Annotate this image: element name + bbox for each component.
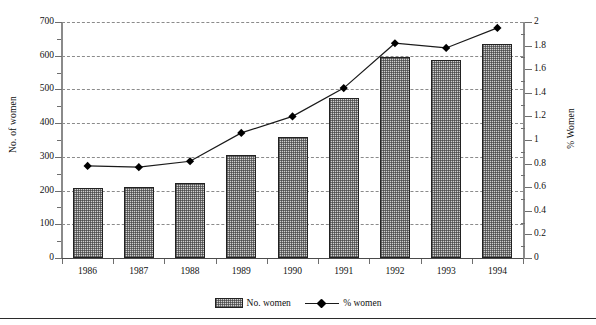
y-axis-left-minor-tick [57, 106, 61, 107]
y-axis-right-tick-label: 0 [534, 253, 539, 263]
line-series-path [88, 28, 498, 167]
x-axis-tick [523, 258, 524, 264]
y-axis-left-minor-tick [57, 174, 61, 175]
y-axis-left-minor-tick [57, 140, 61, 141]
y-axis-right-tick [525, 116, 532, 117]
y-axis-left-tick [55, 56, 62, 57]
y-axis-left-tick-label: 700 [40, 17, 54, 27]
gridline [62, 258, 523, 259]
y-axis-right-tick [525, 69, 532, 70]
line-marker [493, 24, 501, 32]
y-axis-right-tick [525, 187, 532, 188]
y-axis-right-tick [525, 140, 532, 141]
y-axis-right-tick-label: 1.8 [534, 41, 546, 51]
chart-figure: No. of women % Women 0100200300400500600… [0, 0, 596, 325]
y-axis-right-tick [525, 46, 532, 47]
plot-area [62, 22, 523, 258]
line-series [62, 22, 523, 258]
legend-item-bar: No. women [215, 297, 291, 308]
legend-label-bar: No. women [247, 298, 291, 308]
y-axis-right-tick [525, 211, 532, 212]
line-marker [288, 112, 296, 120]
x-axis-tick-label: 1994 [467, 266, 527, 276]
y-axis-right-tick [525, 22, 532, 23]
y-axis-left-minor-tick [57, 73, 61, 74]
chart-legend: No. women % women [0, 297, 596, 308]
y-axis-left-tick [55, 191, 62, 192]
y-axis-left-tick [55, 224, 62, 225]
y-axis-left-minor-tick [57, 207, 61, 208]
y-axis-right-tick-label: 1.2 [534, 111, 546, 121]
y-axis-right-tick-label: 0.4 [534, 206, 546, 216]
y-axis-right-tick-label: 1 [534, 135, 539, 145]
y-axis-right-tick [525, 234, 532, 235]
y-axis-left-tick-label: 300 [40, 152, 54, 162]
y-axis-left-minor-tick [57, 39, 61, 40]
y-axis-left-tick-label: 200 [40, 186, 54, 196]
footer-divider [0, 318, 596, 319]
y-axis-left-tick-label: 0 [49, 253, 54, 263]
line-series-markers [84, 24, 502, 171]
y-axis-left-tick [55, 22, 62, 23]
line-marker-icon [305, 299, 339, 308]
y-axis-left-tick [55, 89, 62, 90]
y-axis-right-tick [525, 164, 532, 165]
line-marker [237, 129, 245, 137]
y-axis-right-tick [525, 258, 532, 259]
y-axis-right-tick-label: 0.8 [534, 159, 546, 169]
y-axis-left-tick-label: 600 [40, 51, 54, 61]
y-axis-right-tick-label: 0.2 [534, 229, 546, 239]
legend-item-line: % women [305, 297, 381, 308]
y-axis-left-title: No. of women [8, 96, 18, 153]
legend-label-line: % women [343, 298, 381, 308]
y-axis-right-tick-label: 0.6 [534, 182, 546, 192]
y-axis-left-tick-label: 500 [40, 84, 54, 94]
y-axis-left-tick [55, 123, 62, 124]
y-axis-left-tick [55, 258, 62, 259]
y-axis-right-title: % Women [566, 108, 576, 149]
y-axis-left-tick-label: 400 [40, 118, 54, 128]
line-marker [135, 163, 143, 171]
y-axis-right-tick [525, 93, 532, 94]
y-axis-left-tick-label: 100 [40, 219, 54, 229]
y-axis-right-tick-label: 2 [534, 17, 539, 27]
y-axis-left-tick [55, 157, 62, 158]
line-marker [442, 44, 450, 52]
bar-swatch-icon [215, 298, 243, 308]
y-axis-right-tick-label: 1.4 [534, 88, 546, 98]
line-marker [84, 162, 92, 170]
y-axis-left-minor-tick [57, 241, 61, 242]
y-axis-right-tick-label: 1.6 [534, 64, 546, 74]
line-marker [186, 157, 194, 165]
